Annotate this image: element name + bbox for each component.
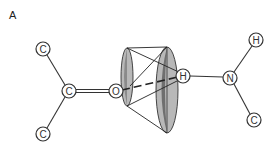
svg-text:C: C <box>65 86 72 97</box>
svg-text:C: C <box>250 115 257 126</box>
atom-o-carbonyl: O <box>109 84 123 98</box>
bond-n-to-c-bottom <box>234 84 250 114</box>
svg-text:H: H <box>179 71 186 82</box>
atom-n-amide: N <box>223 71 237 85</box>
svg-text:O: O <box>112 86 120 97</box>
svg-text:C: C <box>39 129 46 140</box>
atom-c-top-left: C <box>36 42 50 56</box>
atom-c-bottom-right: C <box>247 113 261 127</box>
svg-text:H: H <box>252 35 259 46</box>
svg-text:C: C <box>39 44 46 55</box>
bond-n-to-h-top <box>234 46 252 72</box>
atom-h-bridge: H <box>176 69 190 83</box>
atom-c-center: C <box>62 84 76 98</box>
panel-label: A <box>9 9 17 21</box>
bond-c-top-to-c-center <box>47 55 65 85</box>
hydrogen-bond-diagram: A C C C O H N H <box>0 0 280 154</box>
cone-line-upper-edge <box>127 47 167 48</box>
bond-c-center-to-c-bottom <box>47 97 65 128</box>
atom-h-top-right: H <box>249 33 263 47</box>
svg-text:N: N <box>226 73 233 84</box>
bond-h-to-n <box>190 76 223 77</box>
atom-c-bottom-left: C <box>36 127 50 141</box>
